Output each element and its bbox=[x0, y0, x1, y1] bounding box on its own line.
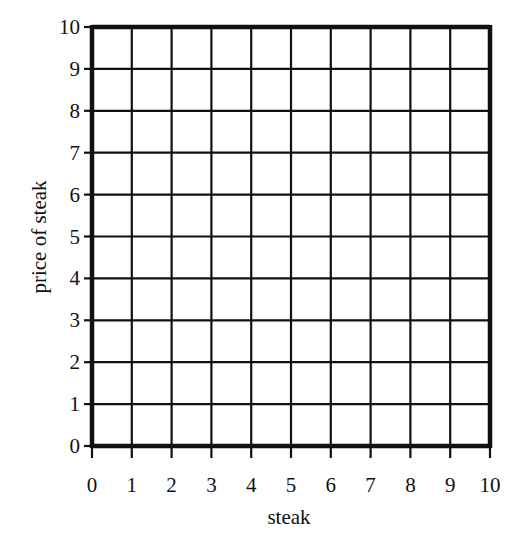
y-tick-label: 3 bbox=[70, 308, 81, 332]
y-axis-label: price of steak bbox=[27, 180, 51, 294]
y-axis-ticks: 012345678910 bbox=[59, 15, 92, 458]
y-tick-label: 6 bbox=[70, 183, 81, 207]
y-tick-label: 7 bbox=[70, 141, 81, 165]
y-tick-label: 2 bbox=[70, 350, 81, 374]
grid-lines bbox=[92, 27, 490, 446]
x-tick-label: 1 bbox=[127, 473, 138, 497]
y-tick-label: 8 bbox=[70, 99, 81, 123]
y-tick-label: 0 bbox=[70, 434, 81, 458]
y-tick-label: 5 bbox=[70, 225, 81, 249]
x-tick-label: 0 bbox=[87, 473, 98, 497]
chart: 012345678910 012345678910 steak price of… bbox=[0, 0, 516, 546]
x-tick-label: 2 bbox=[166, 473, 177, 497]
x-tick-label: 5 bbox=[286, 473, 297, 497]
x-axis-label: steak bbox=[267, 505, 311, 529]
x-tick-label: 6 bbox=[326, 473, 337, 497]
x-tick-label: 8 bbox=[405, 473, 416, 497]
x-axis-ticks: 012345678910 bbox=[87, 446, 501, 497]
y-tick-label: 10 bbox=[59, 15, 80, 39]
x-tick-label: 9 bbox=[445, 473, 456, 497]
x-tick-label: 10 bbox=[480, 473, 501, 497]
x-tick-label: 3 bbox=[206, 473, 217, 497]
x-tick-label: 4 bbox=[246, 473, 257, 497]
y-tick-label: 1 bbox=[70, 392, 81, 416]
y-tick-label: 4 bbox=[70, 266, 81, 290]
x-tick-label: 7 bbox=[365, 473, 376, 497]
y-tick-label: 9 bbox=[70, 57, 81, 81]
